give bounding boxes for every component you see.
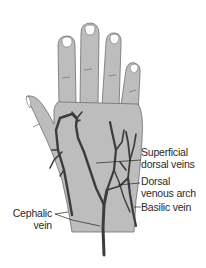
label-cephalic-line2: vein xyxy=(10,219,52,231)
label-superficial-line1: Superficial xyxy=(141,146,195,158)
label-cephalic-vein: Cephalic vein xyxy=(10,207,52,231)
label-dorsal-venous-arch: Dorsal venous arch xyxy=(141,175,196,199)
label-arch-line2: venous arch xyxy=(141,187,196,199)
label-superficial-line2: dorsal veins xyxy=(141,158,195,170)
label-cephalic-line1: Cephalic xyxy=(10,207,52,219)
ring-finger xyxy=(102,33,121,108)
label-arch-line1: Dorsal xyxy=(141,175,196,187)
label-basilic-vein: Basilic vein xyxy=(141,201,191,213)
label-superficial-dorsal-veins: Superficial dorsal veins xyxy=(141,146,195,170)
cephalic-leader-1 xyxy=(55,212,68,214)
label-basilic-line1: Basilic vein xyxy=(141,201,191,213)
